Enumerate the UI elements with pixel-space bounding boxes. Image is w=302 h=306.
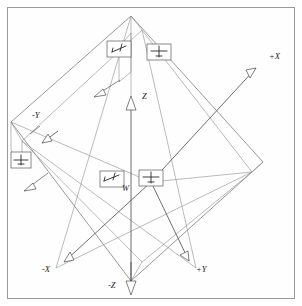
axis-label-plus-z: Z	[142, 91, 147, 101]
body-label: W	[122, 183, 130, 193]
axis-label-plus-y: +Y	[196, 264, 208, 274]
axis-label-plus-x: +X	[269, 51, 281, 61]
axis-label-minus-y: -Y	[32, 110, 41, 120]
axis-minus-z	[126, 262, 136, 295]
axis-label-minus-x: -X	[42, 264, 51, 274]
axis-plus-x	[151, 68, 256, 182]
wireframe-outer	[11, 16, 263, 281]
view-icon-top-right[interactable]	[147, 44, 171, 60]
view-icon-top-left[interactable]	[107, 41, 131, 57]
vector-lower	[24, 173, 48, 191]
view-icon-left-edge[interactable]	[11, 152, 31, 168]
coordinate-diagram: +X -X +Y -Y Z -Z	[0, 0, 302, 306]
view-icon-center-left[interactable]	[100, 171, 124, 187]
wireframe-inner	[11, 16, 263, 281]
view-icon-center-right[interactable]	[139, 170, 163, 186]
vector-minus-y-tail	[30, 126, 40, 134]
figure-frame: +X -X +Y -Y Z -Z	[0, 0, 302, 306]
axis-label-minus-z: -Z	[108, 280, 116, 290]
vector-upper	[94, 80, 120, 97]
